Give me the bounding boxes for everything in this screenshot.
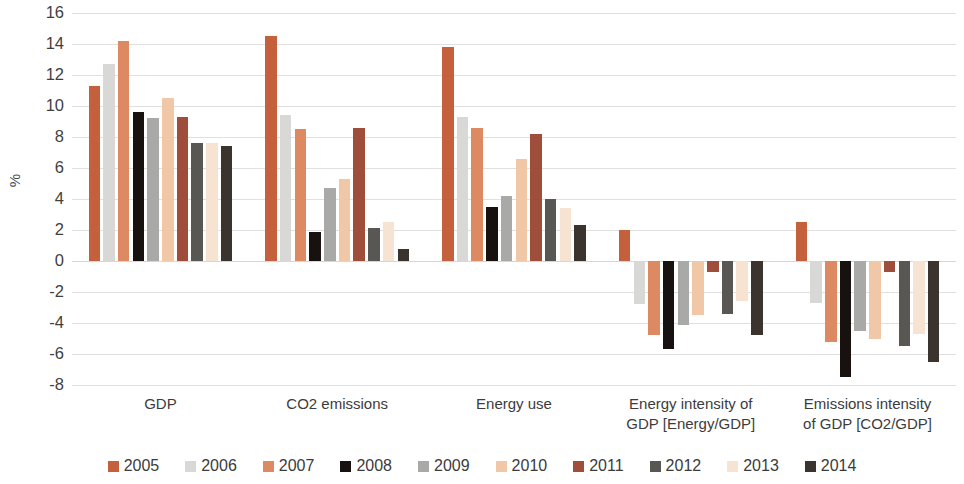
bar-2007[interactable] — [295, 129, 307, 261]
bar-2014[interactable] — [398, 249, 410, 261]
bar-2008[interactable] — [663, 261, 675, 349]
category-label-line: Energy use — [418, 394, 611, 414]
bar-2009[interactable] — [501, 196, 513, 261]
bar-2013[interactable] — [383, 222, 395, 261]
bar-2010[interactable] — [162, 98, 174, 261]
bar-2013[interactable] — [206, 143, 218, 261]
y-axis-tick-label: -6 — [6, 345, 64, 362]
bar-2005[interactable] — [442, 47, 454, 261]
legend-item-2010[interactable]: 2010 — [496, 458, 548, 474]
bar-2013[interactable] — [913, 261, 925, 334]
legend-swatch-icon — [418, 461, 429, 472]
bar-2011[interactable] — [353, 128, 365, 261]
legend-item-2008[interactable]: 2008 — [340, 458, 392, 474]
bar-group — [779, 13, 956, 385]
y-axis-tick-label: 12 — [6, 66, 64, 83]
legend-item-2006[interactable]: 2006 — [185, 458, 237, 474]
y-axis-tick-label: -8 — [6, 376, 64, 393]
bar-2007[interactable] — [648, 261, 660, 335]
category-label-line: GDP [Energy/GDP] — [594, 414, 787, 434]
category-label-line: Emissions intensity — [771, 394, 964, 414]
legend-item-2014[interactable]: 2014 — [805, 458, 857, 474]
legend-swatch-icon — [573, 461, 584, 472]
bar-2007[interactable] — [825, 261, 837, 342]
y-axis-tick-label: 4 — [6, 190, 64, 207]
legend-label: 2005 — [124, 458, 160, 474]
category-label: Energy intensity ofGDP [Energy/GDP] — [594, 394, 787, 434]
y-axis-tick-label: 0 — [6, 252, 64, 269]
bar-2006[interactable] — [634, 261, 646, 304]
bar-2008[interactable] — [486, 207, 498, 261]
bar-2014[interactable] — [928, 261, 940, 362]
legend-label: 2013 — [743, 458, 779, 474]
y-axis-tick-label: 16 — [6, 4, 64, 21]
legend-label: 2006 — [201, 458, 237, 474]
category-label: CO2 emissions — [241, 394, 434, 414]
bar-2007[interactable] — [118, 41, 130, 261]
legend-item-2005[interactable]: 2005 — [108, 458, 160, 474]
bar-2012[interactable] — [722, 261, 734, 314]
bar-2005[interactable] — [796, 222, 808, 261]
chart-legend: 2005200620072008200920102011201220132014 — [0, 458, 964, 474]
bar-2006[interactable] — [103, 64, 115, 261]
y-axis-tick-label: 10 — [6, 97, 64, 114]
legend-swatch-icon — [263, 461, 274, 472]
legend-item-2011[interactable]: 2011 — [573, 458, 623, 474]
y-axis-tick-label: -4 — [6, 314, 64, 331]
gridline — [72, 385, 956, 386]
bar-2005[interactable] — [619, 230, 631, 261]
bar-2011[interactable] — [530, 134, 542, 261]
legend-label: 2010 — [512, 458, 548, 474]
bar-2008[interactable] — [309, 232, 321, 261]
category-label: GDP — [64, 394, 257, 414]
legend-item-2012[interactable]: 2012 — [650, 458, 702, 474]
bar-2010[interactable] — [869, 261, 881, 339]
bar-2010[interactable] — [692, 261, 704, 315]
bar-2005[interactable] — [265, 36, 277, 261]
legend-swatch-icon — [185, 461, 196, 472]
bar-2010[interactable] — [516, 159, 528, 261]
y-axis-tick-label: 6 — [6, 159, 64, 176]
legend-item-2009[interactable]: 2009 — [418, 458, 470, 474]
bar-2006[interactable] — [810, 261, 822, 303]
bar-2011[interactable] — [884, 261, 896, 272]
bar-2011[interactable] — [707, 261, 719, 272]
y-axis-tick-label: 2 — [6, 221, 64, 238]
bar-2012[interactable] — [545, 199, 557, 261]
bar-chart: % 1614121086420-2-4-6-8 GDPCO2 emissions… — [0, 0, 964, 484]
bar-2012[interactable] — [191, 143, 203, 261]
bar-2009[interactable] — [854, 261, 866, 331]
bar-2008[interactable] — [133, 112, 145, 261]
bar-2013[interactable] — [560, 208, 572, 261]
y-axis-tick-label: 8 — [6, 128, 64, 145]
bar-2012[interactable] — [899, 261, 911, 346]
bar-2005[interactable] — [89, 86, 101, 261]
legend-swatch-icon — [496, 461, 507, 472]
plot-area: 1614121086420-2-4-6-8 — [72, 13, 956, 385]
bar-2014[interactable] — [221, 146, 233, 261]
bar-2013[interactable] — [736, 261, 748, 301]
legend-label: 2008 — [356, 458, 392, 474]
bar-2009[interactable] — [147, 118, 159, 261]
bar-2009[interactable] — [324, 188, 336, 261]
legend-label: 2012 — [666, 458, 702, 474]
legend-item-2007[interactable]: 2007 — [263, 458, 315, 474]
bar-2012[interactable] — [368, 228, 380, 261]
legend-swatch-icon — [650, 461, 661, 472]
bar-group — [72, 13, 249, 385]
bar-2006[interactable] — [280, 115, 292, 261]
category-label: Emissions intensityof GDP [CO2/GDP] — [771, 394, 964, 434]
bar-2014[interactable] — [751, 261, 763, 335]
bar-2009[interactable] — [678, 261, 690, 325]
bar-2014[interactable] — [574, 225, 586, 261]
legend-swatch-icon — [727, 461, 738, 472]
y-axis-tick-label: 14 — [6, 35, 64, 52]
bar-2010[interactable] — [339, 179, 351, 261]
bar-2011[interactable] — [177, 117, 189, 261]
bar-2006[interactable] — [457, 117, 469, 261]
bar-2008[interactable] — [840, 261, 852, 377]
y-axis-tick-label: -2 — [6, 283, 64, 300]
category-label-line: of GDP [CO2/GDP] — [771, 414, 964, 434]
bar-2007[interactable] — [471, 128, 483, 261]
legend-item-2013[interactable]: 2013 — [727, 458, 779, 474]
